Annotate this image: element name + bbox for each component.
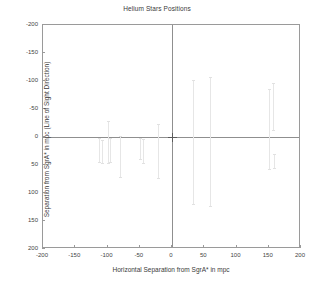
errorbar-cap xyxy=(209,77,212,78)
errorbar-cap xyxy=(109,162,112,163)
x-tick-label: -50 xyxy=(134,252,143,258)
y-axis-label: Separation from SgrA* in mpc (Line of Si… xyxy=(43,28,50,252)
errorbar-cap xyxy=(272,83,275,84)
errorbar-cap xyxy=(268,89,271,90)
errorbar-cap xyxy=(142,139,145,140)
data-point-errorbar xyxy=(269,89,270,169)
data-point-errorbar xyxy=(210,77,211,207)
y-tick-label: 150 xyxy=(18,217,38,223)
errorbar-cap xyxy=(98,138,101,139)
plot-area xyxy=(42,24,300,248)
errorbar-cap xyxy=(107,121,110,122)
errorbar-cap xyxy=(157,178,160,179)
chart-figure: Helium Stars Positions -200-150-100-5005… xyxy=(0,0,314,286)
errorbar-cap xyxy=(107,163,110,164)
errorbar-cap xyxy=(142,163,145,164)
data-point-errorbar xyxy=(102,140,103,162)
data-point-errorbar xyxy=(140,138,141,160)
y-tick-label: 0 xyxy=(18,133,38,139)
y-tick-label: -150 xyxy=(18,49,38,55)
y-tick-label: -50 xyxy=(18,105,38,111)
data-point-errorbar xyxy=(193,80,194,204)
x-tick-label: 50 xyxy=(200,252,207,258)
data-point-errorbar xyxy=(110,138,111,162)
y-tick-mark xyxy=(42,24,45,25)
data-point-errorbar xyxy=(143,139,144,163)
errorbar-cap xyxy=(272,130,275,131)
errorbar-cap xyxy=(109,138,112,139)
chart-title: Helium Stars Positions xyxy=(0,5,314,12)
data-point-errorbar xyxy=(273,83,274,131)
errorbar-cap xyxy=(101,140,104,141)
errorbar-cap xyxy=(192,204,195,205)
errorbar-cap xyxy=(209,206,212,207)
x-tick-label: 0 xyxy=(169,252,172,258)
x-tick-label: 150 xyxy=(263,252,273,258)
errorbar-cap xyxy=(157,124,160,125)
y-tick-label: -200 xyxy=(18,21,38,27)
x-tick-label: 200 xyxy=(295,252,305,258)
x-tick-label: -100 xyxy=(100,252,112,258)
data-point-errorbar xyxy=(158,124,159,179)
x-tick-mark xyxy=(268,245,269,248)
x-tick-mark xyxy=(107,245,108,248)
y-tick-label: 50 xyxy=(18,161,38,167)
x-tick-label: -150 xyxy=(68,252,80,258)
x-tick-mark xyxy=(203,245,204,248)
errorbar-cap xyxy=(101,163,104,164)
x-tick-label: -200 xyxy=(36,252,48,258)
data-point-errorbar xyxy=(99,138,100,162)
data-point-errorbar xyxy=(108,121,109,163)
x-tick-mark xyxy=(171,245,172,248)
data-point-errorbar xyxy=(120,136,121,177)
errorbar-cap xyxy=(273,168,276,169)
y-tick-label: -100 xyxy=(18,77,38,83)
x-axis-label: Horizontal Separation from SgrA* in mpc xyxy=(42,266,300,273)
x-tick-mark xyxy=(236,245,237,248)
sgra-origin-marker xyxy=(168,133,177,142)
y-tick-label: 100 xyxy=(18,189,38,195)
x-tick-mark xyxy=(139,245,140,248)
x-tick-label: 100 xyxy=(230,252,240,258)
x-tick-mark xyxy=(300,245,301,248)
errorbar-cap xyxy=(273,154,276,155)
errorbar-cap xyxy=(139,159,142,160)
errorbar-cap xyxy=(268,169,271,170)
y-tick-label: 200 xyxy=(18,245,38,251)
data-point-errorbar xyxy=(274,154,275,169)
errorbar-cap xyxy=(192,80,195,81)
errorbar-cap xyxy=(119,177,122,178)
x-tick-mark xyxy=(74,245,75,248)
errorbar-cap xyxy=(119,136,122,137)
